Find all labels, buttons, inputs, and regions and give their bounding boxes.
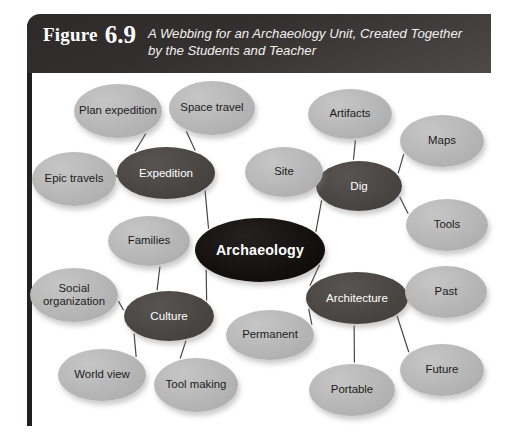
- web-node-label: Dig: [346, 179, 371, 193]
- web-node-label: Maps: [424, 134, 460, 148]
- figure-header-bar: Figure 6.9 A Webbing for an Archaeology …: [27, 14, 491, 73]
- web-node-maps[interactable]: Maps: [400, 115, 484, 167]
- figure-container: Figure 6.9 A Webbing for an Archaeology …: [0, 0, 514, 447]
- web-edge: [400, 197, 408, 214]
- web-node-dig[interactable]: Dig: [316, 161, 402, 211]
- web-node-past[interactable]: Past: [405, 266, 487, 318]
- web-node-site[interactable]: Site: [245, 147, 323, 197]
- figure-number: 6.9: [105, 22, 136, 48]
- web-node-world-view[interactable]: World view: [58, 349, 146, 401]
- web-node-culture[interactable]: Culture: [124, 291, 214, 341]
- figure-title: A Webbing for an Archaeology Unit, Creat…: [148, 25, 466, 59]
- web-edge: [309, 309, 312, 325]
- web-edge: [353, 140, 355, 159]
- web-node-label: Architecture: [322, 291, 392, 305]
- web-node-label: Archaeology: [212, 243, 308, 258]
- web-edge: [157, 267, 160, 291]
- web-node-label: Social organization: [30, 282, 118, 309]
- web-edge: [118, 301, 123, 310]
- figure-header-content: Figure 6.9 A Webbing for an Archaeology …: [43, 22, 481, 59]
- web-node-artifacts[interactable]: Artifacts: [308, 89, 392, 139]
- web-node-label: Past: [431, 285, 462, 299]
- web-edge: [316, 200, 322, 231]
- figure-label: Figure: [43, 22, 98, 48]
- web-node-expedition[interactable]: Expedition: [117, 147, 215, 199]
- web-node-label: Epic travels: [41, 172, 108, 186]
- web-node-tool-making[interactable]: Tool making: [154, 358, 238, 412]
- web-node-permanent[interactable]: Permanent: [226, 310, 314, 360]
- web-node-label: World view: [70, 368, 134, 382]
- web-edge: [205, 190, 208, 228]
- web-node-label: Plan expedition: [75, 104, 161, 118]
- web-node-future[interactable]: Future: [400, 344, 484, 396]
- web-node-families[interactable]: Families: [108, 216, 190, 266]
- web-node-label: Space travel: [176, 101, 247, 115]
- web-node-label: Families: [124, 234, 174, 248]
- web-node-space-travel[interactable]: Space travel: [169, 81, 255, 135]
- web-node-epic-travels[interactable]: Epic travels: [32, 152, 116, 206]
- web-node-tools[interactable]: Tools: [406, 199, 488, 251]
- web-edge: [398, 154, 404, 173]
- concept-web-canvas: ArchaeologyExpeditionDigCultureArchitect…: [32, 73, 491, 428]
- web-node-label: Permanent: [238, 328, 302, 342]
- web-node-plan-expedition[interactable]: Plan expedition: [74, 84, 162, 138]
- web-node-label: Site: [270, 165, 298, 179]
- web-node-social-organization[interactable]: Social organization: [30, 268, 118, 322]
- web-node-label: Tools: [430, 218, 465, 232]
- web-edge: [397, 316, 409, 352]
- web-node-portable[interactable]: Portable: [309, 364, 395, 416]
- web-node-architecture[interactable]: Architecture: [306, 272, 408, 324]
- web-node-label: Portable: [327, 383, 377, 397]
- web-edge: [134, 334, 136, 357]
- web-node-label: Expedition: [135, 166, 197, 180]
- web-node-label: Future: [422, 363, 463, 377]
- web-edge: [180, 341, 186, 359]
- web-node-label: Artifacts: [325, 107, 374, 121]
- web-node-label: Culture: [146, 309, 191, 323]
- web-node-archaeology[interactable]: Archaeology: [195, 218, 325, 282]
- web-edge: [186, 131, 195, 150]
- web-node-label: Tool making: [162, 378, 231, 392]
